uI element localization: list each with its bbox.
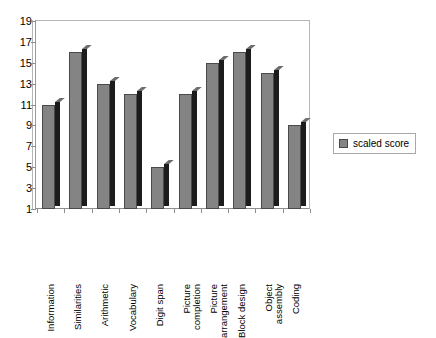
- bar-digit-span: [151, 163, 164, 209]
- y-tick-label: 19: [10, 16, 32, 27]
- bar-picture-arrangement: [206, 59, 219, 209]
- x-axis-label-text: Block design: [237, 284, 247, 338]
- bar-top-face: [301, 118, 311, 122]
- x-axis-label-text: Coding: [291, 284, 301, 314]
- bar-side-face: [192, 91, 197, 206]
- legend-label-scaled-score: scaled score: [353, 138, 409, 149]
- bar-picture-completion: [179, 90, 192, 209]
- bar-side-face: [274, 70, 279, 206]
- x-tick-mark: [310, 209, 311, 213]
- bar-similarities: [69, 48, 82, 209]
- y-tick-label: 7: [10, 141, 32, 152]
- bar-side-face: [301, 122, 306, 206]
- x-axis-label-text: Arithmetic: [100, 284, 110, 326]
- bar-side-face: [110, 81, 115, 206]
- x-tick-mark: [92, 209, 93, 213]
- y-tick-mark: [31, 125, 36, 126]
- bar-coding: [288, 121, 301, 209]
- y-tick-mark: [31, 167, 36, 168]
- y-tick-mark: [31, 84, 36, 85]
- x-axis-label-text: Vocabulary: [128, 284, 138, 331]
- bar-top-face: [246, 45, 256, 49]
- bar-face: [179, 94, 192, 209]
- x-tick-mark: [228, 209, 229, 213]
- y-tick-mark: [31, 146, 36, 147]
- bar-top-face: [137, 87, 147, 91]
- x-tick-mark: [64, 209, 65, 213]
- x-tick-mark: [37, 209, 38, 213]
- y-tick-label: 15: [10, 58, 32, 69]
- bar-side-face: [55, 102, 60, 206]
- y-tick-mark: [31, 105, 36, 106]
- y-tick-label: 1: [10, 204, 32, 215]
- bar-face: [151, 167, 164, 209]
- legend-swatch-scaled-score: [339, 139, 348, 148]
- plot-area: [37, 21, 310, 209]
- bar-arithmetic: [97, 80, 110, 209]
- bar-block-design: [233, 48, 246, 209]
- bar-information: [42, 101, 55, 209]
- x-axis-label-text: assembly: [274, 284, 284, 324]
- bar-face: [97, 84, 110, 209]
- bar-side-face: [246, 49, 251, 206]
- bar-face: [69, 52, 82, 209]
- bar-face: [288, 125, 301, 209]
- y-tick-label: 5: [10, 162, 32, 173]
- y-tick-mark: [31, 188, 36, 189]
- y-axis-tick-labels: 191715131197531: [10, 14, 32, 214]
- x-axis-label-text: completion: [192, 284, 202, 330]
- y-tick-label: 17: [10, 37, 32, 48]
- y-axis-outer-line: [32, 20, 33, 209]
- chart-legend: scaled score: [333, 133, 416, 154]
- bar-face: [124, 94, 137, 209]
- y-tick-mark: [31, 21, 36, 22]
- bar-top-face: [55, 98, 65, 102]
- bar-face: [233, 52, 246, 209]
- bar-face: [261, 73, 274, 209]
- x-tick-mark: [174, 209, 175, 213]
- y-tick-label: 9: [10, 120, 32, 131]
- x-axis-label-text: Digit span: [155, 284, 165, 326]
- y-tick-label: 11: [10, 100, 32, 111]
- bar-side-face: [137, 91, 142, 206]
- bar-top-face: [110, 77, 120, 81]
- x-axis-label-text: arrangement: [219, 284, 229, 338]
- x-axis-label-text: Similarities: [73, 284, 83, 330]
- y-tick-mark: [31, 209, 36, 210]
- y-tick-mark: [31, 42, 36, 43]
- bar-vocabulary: [124, 90, 137, 209]
- x-tick-mark: [146, 209, 147, 213]
- bar-top-face: [274, 66, 284, 70]
- x-tick-mark: [255, 209, 256, 213]
- y-tick-mark: [31, 63, 36, 64]
- bar-top-face: [82, 45, 92, 49]
- y-tick-label: 3: [10, 183, 32, 194]
- bar-top-face: [164, 160, 174, 164]
- y-tick-label: 13: [10, 79, 32, 90]
- x-tick-mark: [283, 209, 284, 213]
- bar-top-face: [192, 87, 202, 91]
- bar-side-face: [164, 164, 169, 206]
- bar-side-face: [82, 49, 87, 206]
- bar-face: [42, 105, 55, 209]
- x-tick-mark: [201, 209, 202, 213]
- bar-object-assembly: [261, 69, 274, 209]
- x-axis-label-text: Information: [46, 284, 56, 332]
- bar-top-face: [219, 56, 229, 60]
- x-tick-mark: [119, 209, 120, 213]
- bar-side-face: [219, 60, 224, 206]
- bar-face: [206, 63, 219, 209]
